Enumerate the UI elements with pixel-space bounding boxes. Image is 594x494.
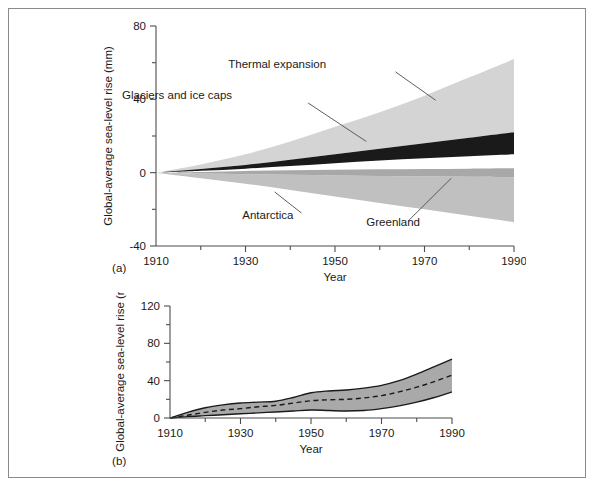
chart-panel-a: -400408019101930195019701990YearGlobal-a… xyxy=(96,8,526,283)
y-axis-title: Global-average sea-level rise (mm) xyxy=(102,46,114,226)
x-axis-title: Year xyxy=(323,271,346,283)
panel-a-content: -400408019101930195019701990YearGlobal-a… xyxy=(102,20,526,283)
band-antarctica xyxy=(156,173,514,223)
panel-b-content: 0408012019101930195019701990YearGlobal-a… xyxy=(114,292,465,455)
x-tick-label: 1930 xyxy=(228,427,254,439)
panel-a-svg: -400408019101930195019701990YearGlobal-a… xyxy=(96,8,526,283)
x-tick-label: 1910 xyxy=(157,427,183,439)
x-tick-label: 1990 xyxy=(439,427,465,439)
annotation-label-0: Thermal expansion xyxy=(228,58,326,70)
x-tick-label: 1910 xyxy=(143,255,169,267)
chart-panel-b: 0408012019101930195019701990YearGlobal-a… xyxy=(110,292,520,467)
x-axis-title: Year xyxy=(299,443,322,455)
x-tick-label: 1970 xyxy=(369,427,395,439)
y-tick-label: 80 xyxy=(147,337,160,349)
x-tick-label: 1950 xyxy=(322,255,348,267)
panel-b-svg: 0408012019101930195019701990YearGlobal-a… xyxy=(110,292,520,467)
annotation-leader-0 xyxy=(395,72,435,100)
panel-a-caption: (a) xyxy=(112,262,126,274)
y-tick-label: 40 xyxy=(147,375,160,387)
annotation-label-2: Antarctica xyxy=(242,209,294,221)
x-tick-label: 1950 xyxy=(298,427,324,439)
y-tick-label: 0 xyxy=(154,412,160,424)
x-tick-label: 1990 xyxy=(501,255,526,267)
annotation-label-3: Greenland xyxy=(366,216,420,228)
figure-root: -400408019101930195019701990YearGlobal-a… xyxy=(0,0,594,494)
x-tick-label: 1930 xyxy=(233,255,259,267)
y-tick-label: -40 xyxy=(129,240,146,252)
y-tick-label: 0 xyxy=(140,167,146,179)
panel-b-caption: (b) xyxy=(112,455,126,467)
y-tick-label: 120 xyxy=(141,300,160,312)
x-tick-label: 1970 xyxy=(412,255,438,267)
annotation-label-1: Glaciers and ice caps xyxy=(122,89,232,101)
y-tick-label: 80 xyxy=(133,20,146,32)
y-axis-title: Global-average sea-level rise (mm) xyxy=(114,292,126,452)
